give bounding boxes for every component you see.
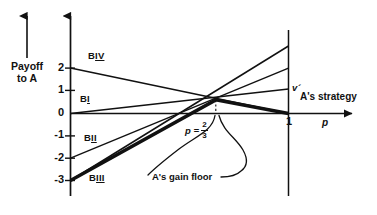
y-tick-label-0: 0 (46, 107, 64, 118)
y-tick-label-minus-1: -1 (42, 129, 64, 140)
line-label-b-iv: BIV (88, 51, 104, 61)
payoff-line-b-i (71, 89, 289, 114)
payoff-diagram: Payoff to A 2 1 0 -1 -2 -3 1 BIV BI BII … (0, 0, 377, 215)
y-tick-label-minus-2: -2 (42, 152, 64, 163)
gain-floor-envelope (71, 100, 289, 181)
y-tick-label-1: 1 (46, 84, 64, 95)
x-axis-caption: A's strategy (300, 92, 357, 102)
y-axis-caption: Payoff to A (4, 60, 50, 84)
x-axis-variable: p (322, 118, 328, 128)
x-tick-label-1: 1 (286, 116, 296, 127)
line-label-b-iii: BIII (89, 173, 105, 183)
gain-floor-leader-right (219, 116, 247, 178)
optimum-label: p = 2 3 (185, 121, 208, 140)
line-label-b-ii: BII (84, 133, 97, 143)
gain-floor-label: A's gain floor (152, 172, 212, 182)
y-tick-label-2: 2 (46, 62, 64, 73)
line-label-b-i: BI (80, 94, 90, 104)
optimum-fraction: 2 3 (201, 121, 208, 140)
y-tick-label-minus-3: -3 (42, 174, 64, 185)
